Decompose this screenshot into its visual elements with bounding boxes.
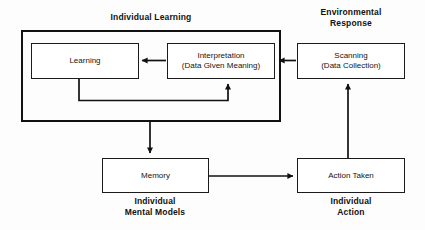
label-individual-learning: Individual Learning: [81, 12, 221, 23]
diagram-canvas: Individual Learning Environmental Respon…: [0, 0, 425, 230]
node-learning[interactable]: Learning: [31, 43, 139, 79]
label-environmental-response: Environmental Response: [293, 7, 409, 28]
node-memory[interactable]: Memory: [102, 158, 209, 193]
node-interpretation[interactable]: Interpretation (Data Given Meaning): [167, 43, 275, 79]
node-scanning[interactable]: Scanning (Data Collection): [297, 43, 405, 79]
node-action-taken[interactable]: Action Taken: [297, 158, 405, 193]
label-individual-action: Individual Action: [301, 196, 401, 217]
label-individual-mental-models: Individual Mental Models: [95, 196, 215, 217]
